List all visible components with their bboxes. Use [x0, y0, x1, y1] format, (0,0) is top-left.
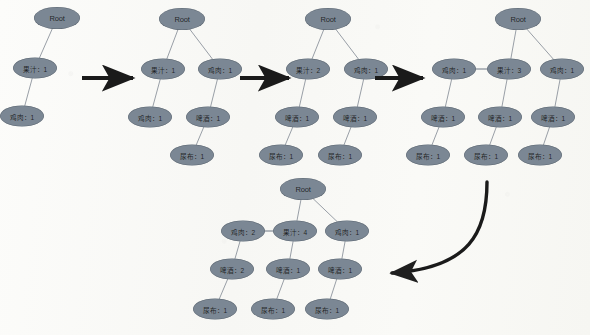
tree-node-s5-diaper2: 尿布：1: [251, 299, 295, 320]
diagram-canvas: Root果汁：1鸡肉：1Root果汁：1鸡肉：1鸡肉：1啤酒：1尿布：1Root…: [0, 0, 590, 335]
tree-node-s2-diaper: 尿布：1: [170, 145, 214, 166]
tree-node-s4-diaper1: 尿布：1: [406, 145, 450, 166]
tree-node-s3-chicken: 鸡肉：1: [344, 59, 388, 80]
tree-node-s3-diaper2: 尿布：1: [318, 145, 362, 166]
tree-node-s4-chickenL: 鸡肉：1: [432, 59, 476, 80]
tree-node-s2-juice: 果汁：1: [141, 59, 185, 80]
tree-node-layer: Root果汁：1鸡肉：1Root果汁：1鸡肉：1鸡肉：1啤酒：1尿布：1Root…: [0, 0, 590, 335]
tree-node-s4-chickenR: 鸡肉：1: [540, 59, 584, 80]
tree-node-s4-beer2: 啤酒：1: [478, 107, 522, 128]
tree-node-s4-diaper2: 尿布：1: [464, 145, 508, 166]
tree-node-s2-chicken2: 鸡肉：1: [128, 107, 172, 128]
tree-node-s1-juice: 果汁：1: [13, 58, 57, 79]
tree-node-s4-juice: 果汁：3: [487, 59, 531, 80]
tree-node-s3-beer2: 啤酒：1: [333, 107, 377, 128]
tree-node-s3-root: Root: [305, 8, 351, 30]
tree-node-s5-beer2: 啤酒：1: [266, 259, 310, 280]
tree-node-s4-beer3: 啤酒：1: [531, 107, 575, 128]
tree-node-s5-chickenR: 鸡肉：1: [325, 221, 369, 242]
tree-node-s3-juice: 果汁：2: [286, 59, 330, 80]
tree-node-s5-root: Root: [280, 178, 326, 200]
tree-node-s5-beer1: 啤酒：2: [210, 259, 254, 280]
tree-node-s5-diaper1: 尿布：1: [193, 299, 237, 320]
tree-node-s1-chicken: 鸡肉：1: [0, 106, 44, 127]
tree-node-s4-diaper3: 尿布：1: [518, 145, 562, 166]
tree-node-s4-root: Root: [495, 8, 541, 30]
tree-node-s5-chickenL: 鸡肉：2: [221, 221, 265, 242]
tree-node-s4-beer1: 啤酒：1: [421, 107, 465, 128]
tree-node-s2-beer: 啤酒：1: [186, 107, 230, 128]
tree-node-s2-chicken: 鸡肉：1: [198, 59, 242, 80]
tree-node-s1-root: Root: [34, 7, 80, 29]
tree-node-s5-beer3: 啤酒：1: [318, 259, 362, 280]
tree-node-s3-beer1: 啤酒：1: [275, 107, 319, 128]
tree-node-s2-root: Root: [159, 8, 205, 30]
tree-node-s5-diaper3: 尿布：1: [305, 299, 349, 320]
tree-node-s3-diaper1: 尿布：1: [259, 145, 303, 166]
tree-node-s5-juice: 果汁：4: [273, 221, 317, 242]
